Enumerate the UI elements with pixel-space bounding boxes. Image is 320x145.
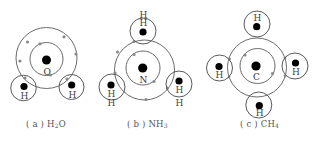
caption-prefix: ( b ) [127,119,148,129]
electron-dot [62,35,65,38]
caption-formula-tail: O [59,119,66,129]
electron-dot [26,40,29,43]
hydrogen-label: H [176,98,184,108]
electron-dot [271,72,274,75]
electron-dot [243,53,246,56]
electron-dot [74,52,77,55]
carbon-label: C [253,72,260,82]
caption-formula: CH [261,119,275,129]
hydrogen-nucleus [20,83,27,90]
hydrogen-label: H [292,67,300,77]
electron-dot [38,42,41,45]
caption-prefix: ( a ) [26,119,47,129]
nitrogen-nucleus [138,63,147,72]
hydrogen-label: H [216,70,224,80]
hydrogen-nucleus [68,81,75,88]
hydrogen-nucleus [139,28,146,35]
hydrogen-label: H [254,13,262,23]
electron-dot [23,76,26,79]
oxygen-nucleus [42,56,51,65]
electron-dot [152,80,155,83]
electron-dot [65,77,68,80]
hydrogen-label: H [176,85,184,95]
hydrogen-label: H [256,108,264,118]
methane-molecule: C H H H H [207,11,309,118]
caption-formula: NH [148,119,163,129]
electron-dot [18,59,21,62]
hydrogen-nucleus [253,23,260,30]
caption-prefix: ( c ) [240,119,261,129]
ammonia-molecule: N H H H H H H [99,10,192,108]
caption-formula: H [47,119,55,129]
hydrogen-label: H [69,90,77,100]
electron-dot [49,73,52,76]
caption-ammonia: ( b ) NH3 [127,119,168,129]
carbon-nucleus [251,61,260,70]
caption-subscript: 3 [164,122,168,129]
caption-methane: ( c ) CH4 [240,119,279,129]
hydrogen-label: H [140,18,148,28]
electron-dot [144,98,147,101]
caption-subscript: 4 [275,122,279,129]
water-molecule: O H H [11,28,84,102]
electron-dot [132,53,135,56]
hydrogen-label: H [108,98,116,108]
hydrogen-label: H [21,91,29,101]
caption-water: ( a ) H2O [26,119,66,129]
hydrogen-nucleus [107,81,114,88]
electron-dot [116,50,119,53]
hydrogen-nucleus [292,59,299,66]
nitrogen-label: N [140,75,148,85]
hydrogen-nucleus [175,77,182,84]
